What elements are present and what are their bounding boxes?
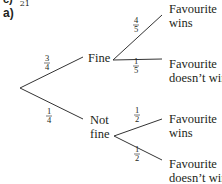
leaf-notfine-not-win-line1: Favourite bbox=[169, 157, 217, 171]
svg-text:2: 2 bbox=[135, 153, 139, 163]
prob-notfine-not-win: 1 2 bbox=[134, 144, 140, 163]
node-not-fine-line1: Not bbox=[90, 113, 109, 127]
leaf-fine-wins-line2: wins bbox=[169, 16, 193, 30]
node-fine: Fine bbox=[88, 51, 111, 65]
prob-notfine-wins: 1 2 bbox=[134, 105, 140, 124]
leaf-notfine-wins-line2: wins bbox=[169, 126, 193, 140]
svg-text:4: 4 bbox=[47, 115, 52, 125]
branch-fine bbox=[20, 57, 83, 88]
leaf-notfine-not-win-line2: doesn’t win bbox=[169, 171, 222, 184]
tree-diagram: Fine Not fine 3 4 1 4 Favourite wins Fav… bbox=[0, 0, 222, 184]
leaf-fine-wins-line1: Favourite bbox=[169, 2, 217, 16]
leaf-fine-not-win-line1: Favourite bbox=[169, 57, 217, 71]
node-not-fine-line2: fine bbox=[90, 127, 110, 141]
prob-not-fine: 1 4 bbox=[46, 106, 52, 125]
prob-fine-not-win: 1 5 bbox=[133, 56, 139, 75]
prob-fine-wins: 4 5 bbox=[133, 15, 139, 34]
svg-text:2: 2 bbox=[135, 114, 139, 124]
svg-text:4: 4 bbox=[45, 62, 50, 72]
branch-not-fine bbox=[20, 88, 83, 119]
prob-fine: 3 4 bbox=[44, 53, 50, 72]
svg-text:5: 5 bbox=[134, 24, 138, 34]
svg-text:5: 5 bbox=[134, 65, 138, 75]
leaf-fine-not-win-line2: doesn’t win bbox=[169, 71, 222, 85]
leaf-notfine-wins-line1: Favourite bbox=[169, 112, 217, 126]
